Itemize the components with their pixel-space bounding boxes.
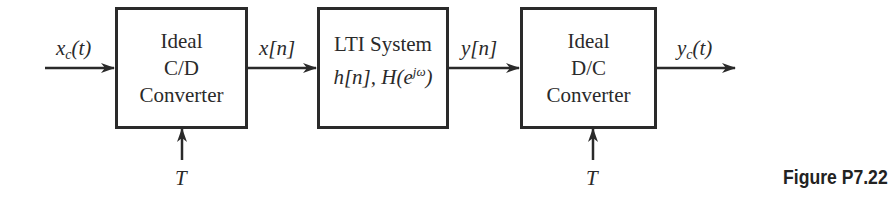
- lti-system-block: LTI System h[n], H(ejω): [317, 7, 449, 129]
- lti-block-response: h[n], H(ejω): [333, 58, 432, 91]
- input-signal-arg: (t): [72, 36, 92, 60]
- lti-output-signal-label: y[n]: [461, 38, 497, 59]
- lti-impulse-and-frequency-response: h[n], H(e: [333, 65, 412, 89]
- output-signal-arg: (t): [693, 36, 713, 60]
- dc-sampling-period-label: T: [586, 168, 598, 189]
- lti-block-title: LTI System: [334, 31, 432, 58]
- output-signal-label: yc(t): [677, 38, 712, 62]
- cd-sampling-period-label: T: [175, 168, 187, 189]
- dc-converter-block: Ideal D/C Converter: [520, 7, 657, 129]
- cd-block-line-2: C/D: [164, 55, 199, 82]
- cd-block-line-3: Converter: [140, 82, 224, 109]
- output-signal-name: y: [677, 36, 686, 60]
- lti-close-paren: ): [426, 65, 433, 89]
- dc-block-line-2: D/C: [571, 55, 606, 82]
- dc-block-line-1: Ideal: [568, 28, 610, 55]
- figure-caption: Figure P7.22: [783, 166, 888, 189]
- cd-output-signal-label: x[n]: [259, 38, 295, 59]
- input-signal-label: xc(t): [56, 38, 91, 62]
- lti-exponent: jω: [413, 64, 426, 79]
- cd-converter-block: Ideal C/D Converter: [115, 7, 248, 129]
- cd-block-line-1: Ideal: [161, 28, 203, 55]
- input-signal-name: x: [56, 36, 65, 60]
- dc-block-line-3: Converter: [547, 82, 631, 109]
